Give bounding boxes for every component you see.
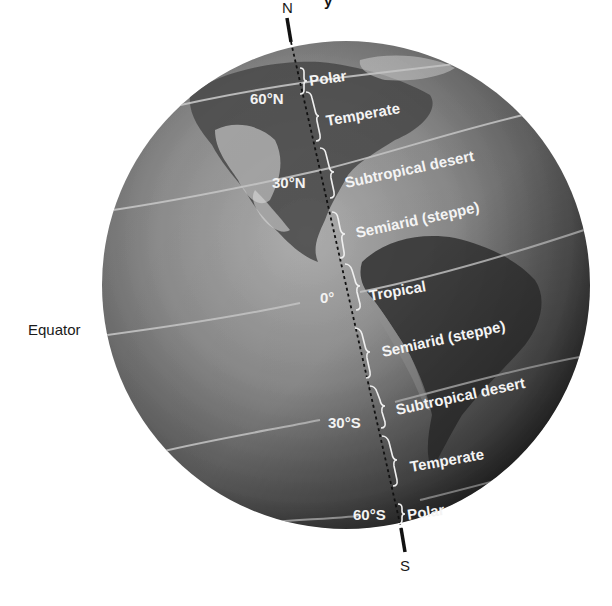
climate-zones-globe-diagram: y [0, 0, 612, 606]
title-fragment: y [324, 0, 333, 9]
latitude-label-60s: 60°S [353, 506, 386, 523]
latitude-label-30s: 30°S [328, 414, 361, 431]
diagram-canvas: y [0, 0, 612, 606]
latitude-label-60n: 60°N [250, 90, 284, 107]
axis-south-stub [401, 528, 405, 552]
north-pole-label: N [282, 0, 293, 16]
latitude-label-30n: 30°N [272, 174, 306, 191]
equator-label: Equator [28, 321, 81, 338]
axis-north-stub [287, 18, 291, 42]
south-pole-label: S [400, 557, 410, 574]
latitude-label-0: 0° [320, 289, 334, 306]
